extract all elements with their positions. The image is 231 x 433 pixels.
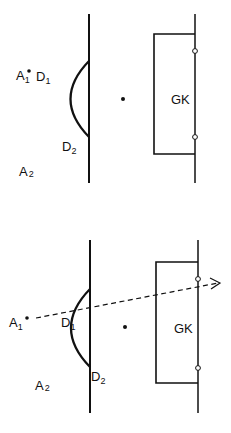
label-d1: D1 [36, 69, 50, 86]
label-d2: D2 [91, 369, 105, 386]
diagram-bottom: A1 D1 D2 A2 GK [9, 240, 220, 413]
arc [71, 61, 90, 137]
ball-dot-icon [123, 325, 127, 329]
label-gk: GK [171, 92, 190, 107]
goal-post-icon [193, 49, 198, 54]
attacker1-dot-icon [27, 69, 31, 73]
label-gk: GK [174, 321, 193, 336]
label-d2: D2 [62, 139, 76, 156]
label-a2: A2 [35, 378, 50, 393]
pass-arrow-dashed [36, 283, 218, 318]
ball-dot-icon [121, 97, 125, 101]
label-a2: A2 [19, 164, 34, 179]
goal-post-icon [193, 135, 198, 140]
label-a1: A1 [9, 315, 23, 332]
attacker1-dot-icon [25, 316, 29, 320]
tactics-diagram: A1 D1 D2 A2 GK A1 D1 D2 A2 GK [0, 0, 231, 433]
goal-post-icon [196, 277, 201, 282]
diagram-top: A1 D1 D2 A2 GK [16, 14, 197, 183]
goal-post-icon [196, 366, 201, 371]
